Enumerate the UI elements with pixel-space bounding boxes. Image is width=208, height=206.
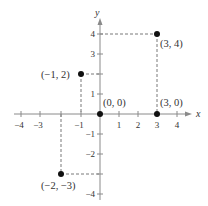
x-tick-label: 3 bbox=[155, 120, 160, 130]
x-tick-label: −1 bbox=[74, 120, 84, 130]
point-label: (−2, −3) bbox=[41, 180, 76, 192]
point-labels: (3, 4) (−1, 2) (0, 0) (3, 0) (−2, −3) bbox=[41, 38, 183, 192]
x-tick-label: 1 bbox=[117, 120, 122, 130]
y-axis-arrow-icon bbox=[98, 18, 103, 25]
point-0-0 bbox=[97, 111, 103, 117]
point-3-0 bbox=[154, 111, 160, 117]
x-tick-label: −3 bbox=[33, 120, 43, 130]
y-tick-label: 1 bbox=[91, 89, 96, 99]
point-label: (−1, 2) bbox=[41, 69, 70, 81]
point-label: (3, 0) bbox=[160, 97, 183, 109]
y-tick-label: 4 bbox=[91, 29, 96, 39]
x-tick-label: 4 bbox=[175, 120, 180, 130]
y-tick-label: −4 bbox=[85, 189, 95, 199]
y-axis-label: y bbox=[94, 7, 100, 18]
point-3-4 bbox=[154, 31, 160, 37]
x-tick-label: −4 bbox=[14, 120, 24, 130]
y-tick-label: −2 bbox=[85, 149, 95, 159]
point-neg2-neg3 bbox=[58, 171, 64, 177]
x-tick-label: 2 bbox=[136, 120, 141, 130]
x-axis-arrow-icon bbox=[185, 112, 192, 117]
x-axis-label: x bbox=[195, 108, 201, 119]
x-tick-labels: −4 −3 −1 1 2 3 4 bbox=[14, 120, 180, 130]
point-neg1-2 bbox=[78, 71, 84, 77]
point-label: (0, 0) bbox=[103, 97, 126, 109]
point-label: (3, 4) bbox=[160, 38, 183, 50]
coordinate-plane: −4 −3 −1 1 2 3 4 4 3 1 −1 −2 −4 x y (3, … bbox=[0, 0, 208, 206]
y-tick-label: −1 bbox=[85, 129, 95, 139]
y-tick-label: 3 bbox=[91, 49, 96, 59]
